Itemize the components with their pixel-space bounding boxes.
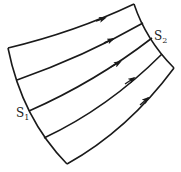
- arrow-icon: [104, 39, 113, 43]
- label-s2: S2: [154, 29, 167, 45]
- streamline-1: [8, 4, 134, 48]
- streamline-2: [17, 23, 143, 80]
- streamline-3: [29, 38, 152, 111]
- flow-tube-diagram: S1 S2: [0, 0, 181, 172]
- arrow-icon: [111, 62, 120, 67]
